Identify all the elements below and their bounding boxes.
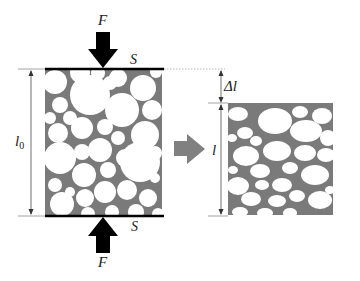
- transition-arrow-icon: [174, 134, 205, 164]
- force-label-bottom: F: [97, 254, 108, 270]
- initial-length-dimension: [29, 70, 34, 215]
- force-arrow-up-icon: [88, 217, 118, 253]
- initial-length-label: l0: [15, 133, 24, 151]
- uncompressed-specimen: [41, 63, 164, 221]
- compressed-specimen: [227, 103, 336, 218]
- final-length-label: l: [212, 142, 216, 158]
- delta-length-label: Δl: [223, 78, 237, 94]
- final-length-dimension: [219, 104, 224, 215]
- force-label-top: F: [97, 12, 108, 28]
- area-label-top: S: [130, 52, 137, 67]
- force-arrow-down-icon: [88, 32, 118, 68]
- area-label-bottom: S: [131, 219, 138, 234]
- delta-length-dimension: [219, 70, 224, 103]
- compression-diagram: F S S F l0 Δl l: [0, 0, 360, 281]
